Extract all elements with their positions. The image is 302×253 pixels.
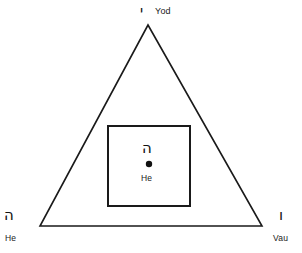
center-dot <box>146 161 152 167</box>
diagram-canvas <box>0 0 302 253</box>
tetragrammaton-diagram: י Yod ה He ו Vau ה He <box>0 0 302 253</box>
